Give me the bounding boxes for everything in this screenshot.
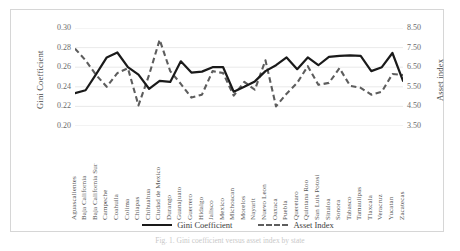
chart-legend: Gini Coefficient Asset Index <box>21 216 455 234</box>
legend-label-gini: Gini Coefficient <box>177 220 232 230</box>
x-category-label: San Luis Potosi <box>313 175 321 220</box>
x-category-label: Ciudad de Mexico <box>154 167 162 220</box>
y-right-tick-3: 5.50 <box>407 82 433 91</box>
plot-area <box>75 28 403 126</box>
y-left-tick-3: 0.24 <box>45 82 71 91</box>
gridlines <box>75 28 403 126</box>
y-right-tick-2: 6.50 <box>407 62 433 71</box>
x-category-label: Aguascalientes <box>70 176 78 220</box>
x-category-label: Quintana Roo <box>302 180 310 220</box>
figure-caption: Fig. 1. Gini coefficient versus asset in… <box>0 236 460 245</box>
y-left-tick-1: 0.28 <box>45 43 71 52</box>
x-category-label: Baja California Sur <box>91 164 99 220</box>
legend-item-asset: Asset Index <box>258 220 333 230</box>
y-right-tick-4: 4.50 <box>407 101 433 110</box>
y-axis-right-ticks: 8.507.506.505.504.503.50 <box>407 24 435 130</box>
y-right-tick-0: 8.50 <box>407 23 433 32</box>
x-category-label: Baja California <box>80 176 88 220</box>
y-left-tick-4: 0.22 <box>45 101 71 110</box>
y-left-tick-5: 0.20 <box>45 121 71 130</box>
y-left-tick-2: 0.26 <box>45 62 71 71</box>
series-line-asset-index <box>75 40 403 107</box>
y-right-tick-1: 7.50 <box>407 43 433 52</box>
x-category-label: Guanajuato <box>175 187 183 220</box>
legend-item-gini: Gini Coefficient <box>142 220 232 230</box>
y-left-tick-0: 0.30 <box>45 23 71 32</box>
y-axis-left-ticks: 0.300.280.260.240.220.20 <box>43 24 71 130</box>
x-axis-category-labels: AguascalientesBaja CaliforniaBaja Califo… <box>75 128 403 220</box>
legend-label-asset: Asset Index <box>293 220 333 230</box>
y-axis-right-title: Asset index <box>435 36 445 124</box>
x-category-label: Nuevo Leon <box>260 184 268 220</box>
y-right-tick-5: 3.50 <box>407 121 433 130</box>
legend-swatch-dashed-icon <box>258 224 288 226</box>
chart-frame: Gini Coefficient Asset index 0.300.280.2… <box>10 9 444 232</box>
chart-svg <box>75 28 403 126</box>
legend-swatch-solid-icon <box>142 224 172 226</box>
figure-container: Gini Coefficient Asset index 0.300.280.2… <box>0 0 460 251</box>
